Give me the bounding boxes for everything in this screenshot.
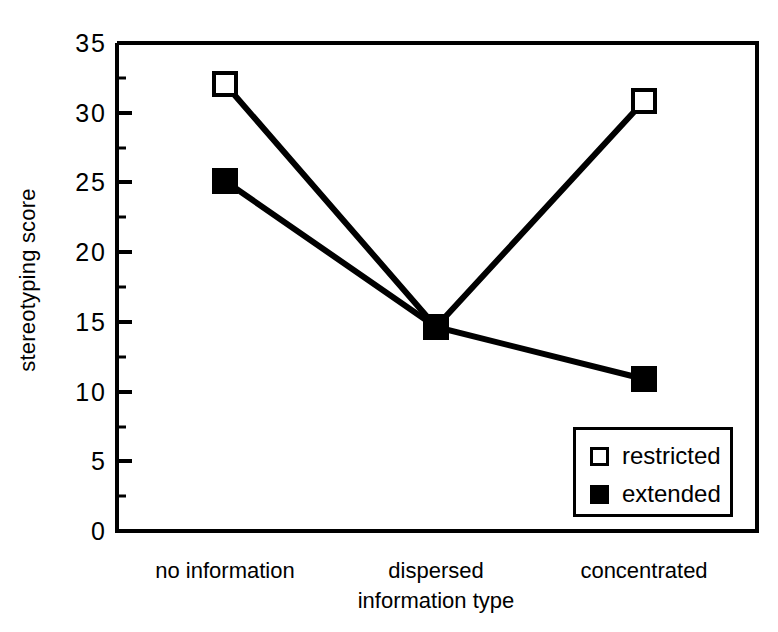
legend-swatch-open-square-icon bbox=[590, 447, 609, 466]
x-axis-title: information type bbox=[358, 588, 515, 614]
legend-label-extended: extended bbox=[622, 482, 721, 506]
series-restricted bbox=[214, 73, 655, 327]
data-point-extended-concentrated bbox=[633, 368, 655, 390]
data-point-extended-no-information bbox=[214, 170, 236, 192]
legend-label-restricted: restricted bbox=[622, 444, 721, 468]
x-tick-label-no-information: no information bbox=[155, 558, 294, 584]
data-point-restricted-concentrated bbox=[633, 90, 655, 112]
x-tick-label-dispersed: dispersed bbox=[388, 558, 483, 584]
plot-canvas bbox=[0, 0, 778, 632]
chart-figure: stereotyping score 35 30 25 20 15 10 5 0 bbox=[0, 0, 778, 632]
x-tick-label-concentrated: concentrated bbox=[580, 558, 707, 584]
legend-swatch-filled-square-icon bbox=[590, 485, 609, 504]
legend: restricted extended bbox=[573, 427, 733, 517]
legend-item-restricted: restricted bbox=[590, 444, 721, 468]
data-point-shared-dispersed bbox=[425, 316, 447, 338]
data-point-restricted-no-information bbox=[214, 73, 236, 95]
legend-item-extended: extended bbox=[590, 482, 721, 506]
series-extended bbox=[214, 170, 655, 390]
